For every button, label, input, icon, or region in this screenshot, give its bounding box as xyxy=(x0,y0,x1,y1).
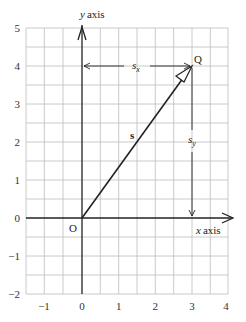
x-tick: 0 xyxy=(79,300,85,312)
y-tick: 0 xyxy=(15,212,21,224)
x-tick: 4 xyxy=(223,300,229,312)
x-tick: −1 xyxy=(38,300,50,312)
y-tick: 2 xyxy=(15,136,21,148)
origin-label: O xyxy=(69,222,77,234)
sy-label: sy xyxy=(188,133,196,148)
x-tick: 1 xyxy=(116,300,122,312)
y-tick-labels: 5 4 3 2 1 0 −1 −2 xyxy=(8,22,20,300)
y-tick: −2 xyxy=(8,288,20,300)
y-axis-label: yaxis xyxy=(79,8,105,20)
x-tick: 2 xyxy=(153,300,159,312)
x-axis-label: xaxis xyxy=(195,224,221,236)
y-tick: 3 xyxy=(15,98,21,110)
x-tick: 3 xyxy=(189,300,195,312)
y-tick: 5 xyxy=(15,22,21,34)
point-q-label: Q xyxy=(194,53,202,65)
x-tick-labels: −1 0 1 2 3 4 xyxy=(38,300,229,312)
vector-arrowhead xyxy=(176,66,192,82)
y-tick: 1 xyxy=(15,174,21,186)
y-tick: 4 xyxy=(15,60,21,72)
vector-diagram: 5 4 3 2 1 0 −1 −2 −1 0 1 2 3 4 yaxis xax… xyxy=(0,0,246,322)
vector-s-label: s xyxy=(130,129,135,141)
axes xyxy=(26,25,233,294)
y-tick: −1 xyxy=(8,250,20,262)
sx-label: sx xyxy=(132,59,140,74)
grid xyxy=(26,28,228,294)
